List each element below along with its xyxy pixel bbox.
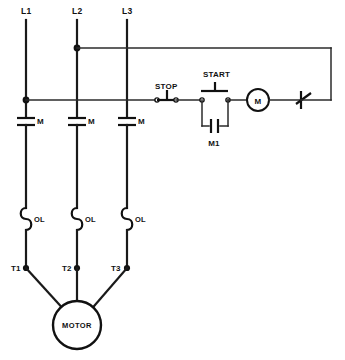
contact-m-l3-label: M <box>138 117 145 126</box>
overload-heater-l2-icon <box>72 208 83 230</box>
motor-starter-diagram: L1 L2 L3 M OL T1 M OL <box>0 0 345 360</box>
contact-m1-label: M1 <box>208 139 220 148</box>
terminal-label-t1: T1 <box>11 264 21 273</box>
wire-t3-to-motor <box>89 268 127 312</box>
start-button-label[interactable]: START <box>203 70 230 79</box>
power-line-label-l2: L2 <box>72 6 82 16</box>
overload-heater-l2-label: OL <box>85 215 96 224</box>
overload-contact-slash <box>296 93 311 104</box>
wire-t1-to-motor <box>26 268 66 312</box>
overload-heater-l3-icon <box>122 208 133 230</box>
power-line-label-l1: L1 <box>21 6 31 16</box>
overload-heater-l1-label: OL <box>34 215 45 224</box>
overload-heater-l3-label: OL <box>135 215 146 224</box>
power-line-label-l3: L3 <box>122 6 132 16</box>
stop-button-label[interactable]: STOP <box>155 82 178 91</box>
terminal-label-t3: T3 <box>111 264 121 273</box>
schematic-canvas: L1 L2 L3 M OL T1 M OL <box>0 0 345 360</box>
terminal-label-t2: T2 <box>62 264 72 273</box>
contactor-coil-label: M <box>255 97 262 106</box>
contact-m-l2-label: M <box>88 117 95 126</box>
overload-heater-l1-icon <box>21 208 32 230</box>
motor-label: MOTOR <box>62 321 92 330</box>
contact-m-l1-label: M <box>37 117 44 126</box>
